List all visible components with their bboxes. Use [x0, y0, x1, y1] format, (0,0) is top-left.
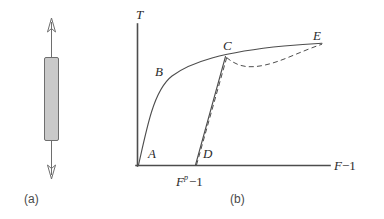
point-label-c: C — [223, 38, 232, 53]
specimen-bar — [45, 58, 59, 141]
x-axis-label: F −1 — [333, 158, 356, 173]
point-label-b: B — [155, 64, 163, 79]
loading-curve — [139, 43, 323, 165]
point-label-d: D — [202, 146, 213, 161]
y-axis-label: T — [136, 7, 144, 22]
point-label-e: E — [312, 28, 321, 43]
panel-a-caption: (a) — [24, 192, 39, 206]
point-label-a: A — [147, 146, 156, 161]
tick-label-superscript: p — [183, 173, 188, 182]
panel-b-caption: (b) — [230, 192, 245, 206]
panel-b-group: T F −1 F p −1 A B C D E (b) — [136, 7, 356, 206]
panel-a-group: (a) — [24, 18, 59, 206]
figure-svg: (a) T F −1 F p −1 A B C D E — [0, 0, 384, 219]
x-axis-label-rest: −1 — [342, 158, 356, 173]
figure-container: (a) T F −1 F p −1 A B C D E — [0, 0, 384, 219]
tick-label-rest: −1 — [189, 174, 203, 189]
reloaded-curve — [227, 44, 323, 67]
plastic-stretch-tick-label: F p −1 — [175, 173, 203, 189]
